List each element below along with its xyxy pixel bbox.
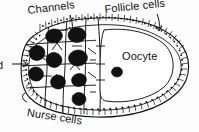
figure-canvas: Channels Follicle cells Oocyte Nurse cel… [0, 0, 199, 132]
label-clipped-left: d [0, 60, 3, 71]
label-oocyte: Oocyte [122, 51, 157, 62]
nurse-leader [23, 93, 27, 102]
oocyte-nucleus [112, 67, 123, 77]
